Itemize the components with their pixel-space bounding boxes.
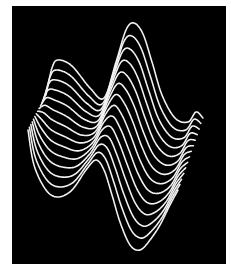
wave-surface-figure bbox=[0, 0, 231, 276]
surface-curves bbox=[28, 23, 203, 250]
surface-curve bbox=[28, 130, 178, 250]
